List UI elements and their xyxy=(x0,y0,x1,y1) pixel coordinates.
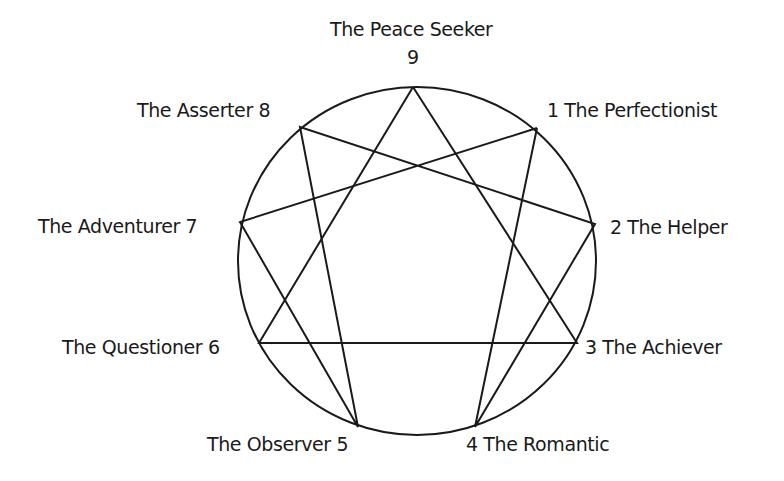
label-8: The Asserter 8 xyxy=(137,99,270,121)
hexad-lines xyxy=(240,127,595,427)
label-7: The Adventurer 7 xyxy=(38,215,197,237)
enneagram-circle xyxy=(238,87,596,435)
label-9-name: The Peace Seeker xyxy=(330,18,493,40)
label-3: 3 The Achiever xyxy=(585,336,722,358)
label-6: The Questioner 6 xyxy=(62,336,220,358)
label-5: The Observer 5 xyxy=(207,433,348,455)
label-2: 2 The Helper xyxy=(610,216,728,238)
label-9-number: 9 xyxy=(407,46,419,68)
label-1: 1 The Perfectionist xyxy=(547,99,717,121)
enneagram-diagram xyxy=(0,0,784,481)
label-4: 4 The Romantic xyxy=(466,433,609,455)
